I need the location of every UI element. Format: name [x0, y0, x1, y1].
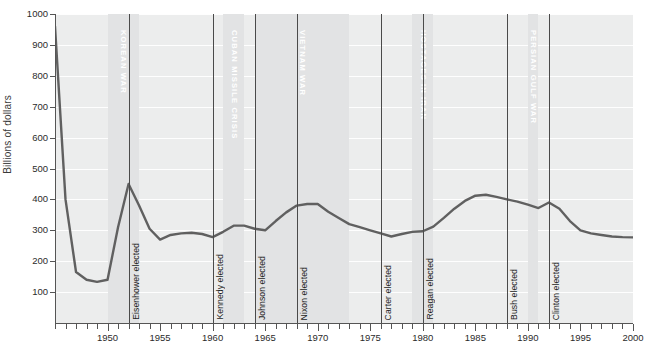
y-tick-label: 100 — [18, 287, 48, 297]
y-tick-label: 600 — [18, 133, 48, 143]
x-tick-mark — [234, 324, 235, 329]
x-tick-mark — [633, 324, 634, 331]
x-tick-mark — [192, 324, 193, 329]
x-tick-mark — [108, 324, 109, 331]
x-tick-mark — [87, 324, 88, 329]
event-line — [381, 14, 382, 323]
x-tick-mark — [265, 324, 266, 331]
x-tick-mark — [570, 324, 571, 329]
x-tick-mark — [150, 324, 151, 329]
x-tick-mark — [286, 324, 287, 329]
event-line — [549, 14, 550, 323]
x-tick-mark — [139, 324, 140, 329]
x-tick-mark — [66, 324, 67, 329]
x-tick-label: 1960 — [196, 332, 230, 343]
x-tick-mark — [171, 324, 172, 329]
y-tick-label: 900 — [18, 40, 48, 50]
x-tick-mark — [391, 324, 392, 329]
x-tick-mark — [402, 324, 403, 329]
x-tick-mark — [454, 324, 455, 329]
event-label: Eisenhower elected — [131, 243, 141, 320]
event-label: Carter elected — [383, 265, 393, 320]
plot-area: KOREAN WARCUBAN MISSILE CRISISVIETNAM WA… — [55, 14, 633, 323]
x-tick-mark — [360, 324, 361, 329]
x-tick-mark — [475, 324, 476, 331]
x-tick-mark — [433, 324, 434, 329]
x-tick-label: 1980 — [406, 332, 440, 343]
event-label: Reagan elected — [425, 258, 435, 320]
event-label: Nixon elected — [299, 267, 309, 320]
x-tick-mark — [612, 324, 613, 329]
x-tick-mark — [97, 324, 98, 329]
x-tick-mark — [213, 324, 214, 331]
x-tick-mark — [486, 324, 487, 329]
x-tick-mark — [328, 324, 329, 329]
event-line — [213, 14, 214, 323]
x-tick-mark — [559, 324, 560, 329]
y-tick-label: 700 — [18, 102, 48, 112]
x-tick-mark — [517, 324, 518, 329]
x-tick-mark — [276, 324, 277, 329]
x-tick-mark — [528, 324, 529, 331]
x-tick-mark — [118, 324, 119, 329]
x-tick-mark — [349, 324, 350, 329]
x-tick-mark — [444, 324, 445, 329]
x-tick-mark — [622, 324, 623, 329]
x-tick-label: 1970 — [301, 332, 335, 343]
y-tick-label: 400 — [18, 194, 48, 204]
x-tick-label: 2000 — [616, 332, 646, 343]
x-tick-mark — [601, 324, 602, 329]
x-tick-mark — [591, 324, 592, 329]
defense-spending-chart: Billions of dollars 10020030040050060070… — [0, 0, 646, 351]
x-tick-mark — [181, 324, 182, 329]
event-line — [297, 14, 298, 323]
x-tick-mark — [55, 324, 56, 329]
y-tick-label: 1000 — [18, 9, 48, 19]
event-label: Kennedy elected — [215, 254, 225, 320]
event-line — [255, 14, 256, 323]
x-tick-mark — [580, 324, 581, 331]
x-tick-mark — [297, 324, 298, 329]
x-tick-mark — [202, 324, 203, 329]
x-tick-mark — [339, 324, 340, 329]
x-tick-label: 1975 — [353, 332, 387, 343]
event-label: Johnson elected — [257, 256, 267, 320]
x-tick-mark — [244, 324, 245, 329]
event-label: Clinton elected — [551, 262, 561, 320]
x-tick-mark — [129, 324, 130, 329]
x-tick-mark — [538, 324, 539, 329]
x-tick-label: 1965 — [248, 332, 282, 343]
x-tick-mark — [423, 324, 424, 331]
x-tick-label: 1995 — [563, 332, 597, 343]
x-tick-mark — [381, 324, 382, 329]
x-tick-mark — [507, 324, 508, 329]
x-tick-mark — [255, 324, 256, 329]
x-tick-mark — [160, 324, 161, 331]
x-tick-mark — [496, 324, 497, 329]
y-axis-line — [55, 14, 56, 324]
x-tick-label: 1950 — [91, 332, 125, 343]
event-line — [507, 14, 508, 323]
x-tick-label: 1955 — [143, 332, 177, 343]
x-tick-label: 1990 — [511, 332, 545, 343]
data-line — [55, 26, 633, 282]
series-line — [55, 14, 633, 323]
x-tick-mark — [412, 324, 413, 329]
x-tick-mark — [465, 324, 466, 329]
x-tick-mark — [223, 324, 224, 329]
x-tick-mark — [318, 324, 319, 331]
x-tick-label: 1985 — [458, 332, 492, 343]
y-tick-label: 200 — [18, 256, 48, 266]
event-line — [129, 14, 130, 323]
x-tick-mark — [76, 324, 77, 329]
y-axis-ticks: 1002003004005006007008009001000 — [16, 0, 48, 351]
y-tick-label: 800 — [18, 71, 48, 81]
x-axis-line — [55, 323, 633, 324]
y-tick-label: 300 — [18, 225, 48, 235]
x-tick-mark — [370, 324, 371, 331]
event-label: Bush elected — [509, 269, 519, 320]
y-tick-label: 500 — [18, 164, 48, 174]
event-line — [423, 14, 424, 323]
x-tick-mark — [307, 324, 308, 329]
x-tick-mark — [549, 324, 550, 329]
